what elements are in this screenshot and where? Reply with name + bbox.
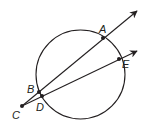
secant-diagram: A E B D C xyxy=(0,0,146,126)
point-B xyxy=(37,90,41,94)
label-C: C xyxy=(12,109,20,121)
label-E: E xyxy=(122,58,130,70)
label-D: D xyxy=(36,101,44,113)
label-B: B xyxy=(27,83,34,95)
point-E xyxy=(117,57,121,61)
label-A: A xyxy=(98,23,106,35)
point-D xyxy=(40,94,44,98)
point-A xyxy=(101,36,105,40)
circle xyxy=(36,30,125,119)
point-C xyxy=(20,104,24,108)
